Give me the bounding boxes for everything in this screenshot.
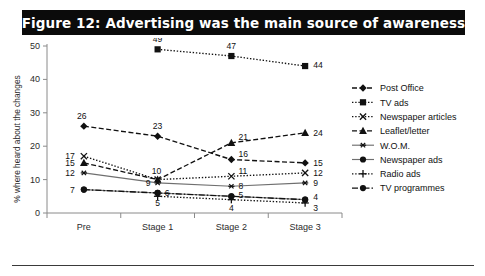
legend-label: TV ads: [380, 98, 409, 108]
bottom-divider: [12, 265, 474, 266]
y-axis-tick: 40: [30, 74, 40, 84]
data-point-label: 15: [313, 158, 323, 168]
data-point-label: 11: [238, 166, 247, 176]
data-point-label: 47: [227, 41, 237, 51]
axes-layer: 01020304050PreStage 1Stage 2Stage 3: [30, 41, 342, 232]
data-point-label: 44: [313, 60, 323, 70]
legend-label: Radio ads: [380, 169, 421, 179]
data-point-label: 12: [65, 168, 75, 178]
data-point-label: 6: [165, 188, 170, 198]
figure-title-banner: Figure 12: Advertising was the main sour…: [22, 10, 465, 35]
x-axis-category: Pre: [77, 222, 91, 232]
y-axis-tick: 50: [30, 41, 40, 51]
data-point-label: 26: [77, 111, 87, 121]
data-point-label: 49: [153, 38, 163, 44]
series-w-o-m: [81, 171, 308, 189]
y-axis-tick: 0: [35, 208, 40, 218]
data-point-label: 15: [65, 158, 75, 168]
y-axis-tick: 10: [30, 175, 40, 185]
chart-legend: Post OfficeTV adsNewspaper articlesLeafl…: [352, 83, 457, 193]
legend-label: Newspaper articles: [380, 112, 457, 122]
legend-label: TV programmes: [380, 183, 445, 193]
legend-item-radio-ads[interactable]: Radio ads: [352, 169, 421, 179]
data-point-label: 12: [313, 168, 323, 178]
chart-plot-area: % where heard about the changes 01020304…: [0, 38, 485, 248]
series-post-office: [80, 122, 309, 166]
figure-title: Figure 12: Advertising was the main sour…: [22, 15, 465, 31]
data-point-label: 10: [152, 166, 162, 176]
data-point-label: 24: [313, 128, 323, 138]
series-newspaper-ads: [81, 187, 308, 203]
x-axis-category: Stage 3: [290, 222, 321, 232]
legend-item-tv-ads[interactable]: TV ads: [352, 98, 409, 108]
data-point-label: 5: [155, 198, 160, 208]
x-axis-category: Stage 1: [142, 222, 173, 232]
series-leaflet-letter: [80, 129, 309, 183]
data-point-label: 7: [70, 185, 75, 195]
data-point-label: 3: [313, 203, 318, 213]
figure-container: Figure 12: Advertising was the main sour…: [0, 0, 485, 276]
legend-item-leaflet-letter[interactable]: Leaflet/letter: [352, 126, 430, 136]
data-point-label: 4: [229, 203, 234, 213]
data-point-label: 21: [238, 132, 248, 142]
x-axis-category: Stage 2: [216, 222, 247, 232]
legend-item-tv-programmes[interactable]: TV programmes: [352, 183, 445, 193]
y-axis-tick: 20: [30, 141, 40, 151]
legend-label: W.O.M.: [380, 141, 410, 151]
legend-item-w-o-m[interactable]: W.O.M.: [352, 141, 410, 151]
legend-item-newspaper-ads[interactable]: Newspaper ads: [352, 155, 443, 165]
data-point-label: 23: [153, 121, 163, 131]
data-point-label: 9: [146, 178, 151, 188]
series-layer: [80, 46, 309, 206]
legend-label: Newspaper ads: [380, 155, 443, 165]
legend-item-newspaper-articles[interactable]: Newspaper articles: [352, 112, 457, 122]
data-labels-layer: 2617151274923109654721161185444241512943: [65, 38, 323, 213]
legend-label: Post Office: [380, 83, 424, 93]
data-point-label: 16: [238, 149, 248, 159]
series-newspaper-articles: [81, 153, 308, 183]
data-point-label: 9: [313, 178, 318, 188]
legend-label: Leaflet/letter: [380, 126, 430, 136]
legend-item-post-office[interactable]: Post Office: [352, 83, 424, 93]
y-axis-tick: 30: [30, 108, 40, 118]
data-point-label: 4: [313, 192, 318, 202]
data-point-label: 5: [238, 190, 243, 200]
chart-svg: 01020304050PreStage 1Stage 2Stage 3 2617…: [0, 38, 485, 248]
